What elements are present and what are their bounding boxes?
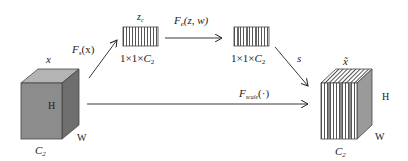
output-cube-stripe — [349, 83, 351, 139]
input-width-label: W — [77, 132, 87, 143]
excitation-vector-dims: 1×1×C2 — [231, 52, 266, 66]
output-height-label: H — [382, 91, 389, 102]
input-cube-front — [21, 83, 62, 139]
se-block-diagram: x H W C2 Fs(x) zc 1×1×C2 Fe(z, w) — [0, 0, 408, 161]
excitation-arrow-label: Fe(z, w) — [173, 14, 209, 28]
squeeze-vector-box — [123, 27, 158, 46]
output-label-x-tilde: x̃ — [342, 55, 349, 67]
input-height-label: H — [48, 100, 55, 111]
scale-diagonal-arrow-line — [275, 47, 308, 86]
squeeze-vector: zc 1×1×C2 — [120, 11, 158, 66]
output-cube-front — [321, 83, 357, 139]
excitation-vector: 1×1×C2 — [231, 27, 269, 66]
squeeze-arrow-label: Fs(x) — [71, 43, 95, 57]
output-width-label: W — [375, 131, 385, 142]
excitation-vector-shade — [255, 27, 257, 46]
scale-arrow-label: Fscale(·) — [238, 87, 269, 100]
scale-diagonal-arrow-label: s — [297, 52, 301, 64]
input-feature-map: x H W C2 — [21, 53, 87, 158]
excitation-arrow: Fe(z, w) — [165, 14, 222, 38]
excitation-vector-shade — [237, 27, 239, 46]
squeeze-vector-label: zc — [136, 11, 144, 23]
input-label-x: x — [45, 53, 51, 65]
excitation-vector-shade — [246, 27, 248, 46]
input-channel-label: C2 — [35, 144, 46, 158]
scale-arrow: Fscale(·) — [87, 87, 308, 104]
output-channel-label: C2 — [335, 145, 346, 159]
squeeze-vector-dims: 1×1×C2 — [120, 52, 155, 66]
excitation-vector-box — [234, 27, 269, 46]
scale-diagonal-arrow: s — [275, 47, 308, 86]
output-cube-stripe — [340, 83, 342, 139]
output-cube-stripe — [328, 83, 330, 139]
output-feature-map: x̃ H W C2 — [321, 55, 389, 159]
